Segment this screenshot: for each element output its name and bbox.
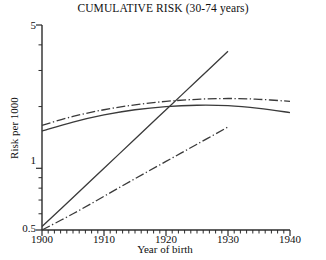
series-rising-solid [42,51,228,226]
series-rising-dashdot [42,127,228,230]
plot-area [0,0,326,260]
chart-figure: CUMULATIVE RISK (30-74 years) Risk per 1… [0,0,326,260]
axis-lines [42,25,290,230]
axis-ticks [36,25,290,236]
series-plateau-dashdot [42,99,290,126]
data-series-group [42,51,290,230]
